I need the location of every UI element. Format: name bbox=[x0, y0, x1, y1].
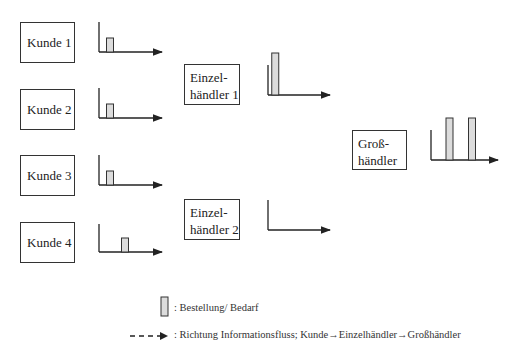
chart-kunde-4 bbox=[99, 224, 162, 252]
order-bar bbox=[446, 118, 453, 160]
order-bar bbox=[107, 171, 114, 185]
chart-einzelhaendler-1 bbox=[268, 53, 330, 95]
order-bar bbox=[272, 53, 279, 95]
chart-kunde-2 bbox=[99, 88, 162, 118]
legend-bar-label: : Bestellung/ Bedarf bbox=[174, 302, 259, 313]
order-bar bbox=[107, 38, 114, 52]
legend-bar-symbol bbox=[161, 297, 168, 316]
legend-arrow-label: : Richtung Informationsfluss; Kunde→Einz… bbox=[174, 329, 461, 340]
chart-einzelhaendler-2 bbox=[268, 200, 330, 230]
chart-grosshaendler bbox=[431, 118, 498, 160]
chart-kunde-3 bbox=[99, 155, 162, 185]
order-bar bbox=[122, 238, 129, 252]
legend-arrowhead-icon bbox=[160, 332, 168, 340]
chart-kunde-1 bbox=[99, 22, 162, 52]
order-bar bbox=[469, 118, 476, 160]
order-bar bbox=[107, 104, 114, 118]
